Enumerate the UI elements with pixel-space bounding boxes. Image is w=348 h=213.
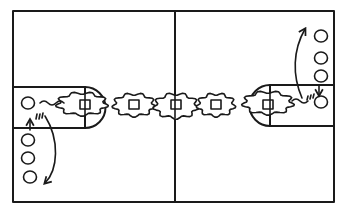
right-connector xyxy=(292,99,308,103)
left-player xyxy=(22,152,35,164)
left-dash-marks xyxy=(36,113,43,119)
right-player xyxy=(315,52,328,64)
right-player xyxy=(315,30,328,42)
left-player xyxy=(24,171,37,183)
right-player xyxy=(315,70,328,82)
right-long-arrow xyxy=(295,29,305,98)
court-diagram xyxy=(0,0,348,213)
right-player xyxy=(315,96,328,108)
passer-square xyxy=(171,100,181,109)
right-dash-marks xyxy=(307,94,314,100)
left-long-arrow xyxy=(45,116,56,183)
passer-square xyxy=(129,100,139,109)
left-player xyxy=(22,134,35,146)
passer-square xyxy=(211,100,221,109)
passer-square xyxy=(263,100,273,109)
left-player xyxy=(22,97,35,109)
